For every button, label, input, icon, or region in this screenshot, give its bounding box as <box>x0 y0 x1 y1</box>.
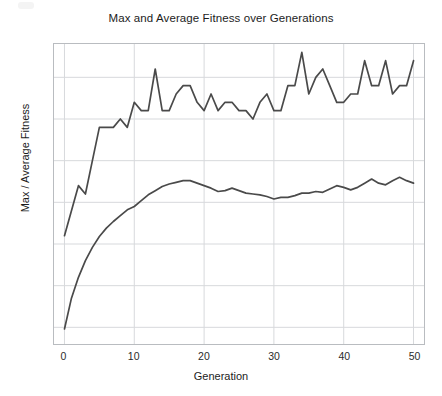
x-axis-tick-label: 20 <box>184 350 224 362</box>
x-axis-tick-label: 40 <box>324 350 364 362</box>
x-axis-tick-label: 50 <box>394 350 434 362</box>
axis-ticks: 0102030405050556065707580 <box>0 0 442 396</box>
chart-figure: Max and Average Fitness over Generations… <box>0 0 442 396</box>
x-axis-label: Generation <box>0 370 442 382</box>
x-axis-tick-label: 0 <box>44 350 84 362</box>
x-axis-tick-label: 30 <box>254 350 294 362</box>
x-axis-tick-label: 10 <box>114 350 154 362</box>
y-axis-label: Max / Average Fitness <box>19 58 31 258</box>
